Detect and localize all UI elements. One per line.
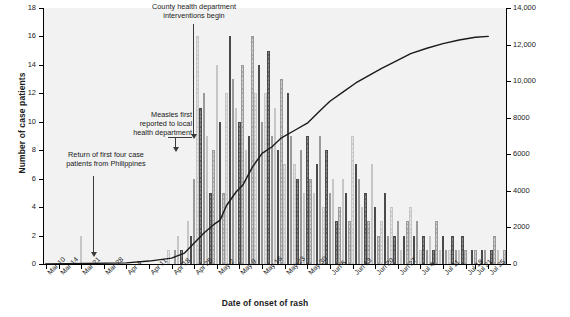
x-axis-title: Date of onset of rash	[0, 298, 530, 308]
annotation-return-line1: Return of first four case	[68, 150, 144, 159]
annotation-measles-reported: Measles first reported to local health d…	[62, 110, 192, 138]
y-axis-left-tick	[39, 36, 43, 37]
x-axis-tick	[172, 265, 173, 269]
y-axis-right-tick	[507, 81, 511, 82]
y-axis-left-tick-label: 16	[28, 31, 36, 40]
annotation-return-leader-line	[93, 176, 94, 254]
annotation-county-leader-line	[193, 24, 194, 136]
x-axis-tick	[46, 265, 47, 269]
y-axis-right-tick-label: 12,000	[513, 40, 536, 49]
y-axis-left-title: Number of case patients	[17, 38, 27, 208]
annotation-county-line2: interventions begin	[163, 11, 224, 20]
annotation-county-line1: County health department	[152, 2, 236, 11]
x-axis-tick	[59, 265, 60, 269]
y-axis-right-tick	[507, 264, 511, 265]
y-axis-left-tick-label: 6	[32, 174, 36, 183]
x-axis-tick	[466, 265, 467, 269]
y-axis-right-tick-label: 14,000	[513, 3, 536, 12]
y-axis-right-tick	[507, 191, 511, 192]
annotation-return-arrow-icon	[91, 252, 97, 257]
annotation-county-interventions: County health department interventions b…	[130, 2, 258, 20]
y-axis-left-tick-label: 10	[28, 117, 36, 126]
y-axis-left-tick-label: 2	[32, 231, 36, 240]
y-axis-right-tick-label: 10,000	[513, 76, 536, 85]
y-axis-left-tick	[39, 264, 43, 265]
x-axis-tick	[398, 265, 399, 269]
annotation-return-philippines: Return of first four case patients from …	[36, 150, 176, 168]
y-axis-left-line	[43, 8, 44, 265]
y-axis-left-tick	[39, 236, 43, 237]
y-axis-right-tick	[507, 227, 511, 228]
y-axis-left-tick	[39, 65, 43, 66]
y-axis-right-tick	[507, 154, 511, 155]
y-axis-left-tick-label: 4	[32, 202, 36, 211]
y-axis-left-tick-label: 18	[28, 3, 36, 12]
x-axis-tick	[104, 265, 105, 269]
annotation-measles-line2: reported to local	[140, 119, 192, 128]
annotation-measles-leader-horizontal	[168, 137, 192, 138]
y-axis-left-tick	[39, 8, 43, 9]
chart-figure: Number of case patients Cumulative numbe…	[0, 0, 570, 317]
y-axis-right-tick	[507, 45, 511, 46]
x-axis-tick	[353, 265, 354, 269]
y-axis-right-tick	[507, 118, 511, 119]
y-axis-left-tick-label: 12	[28, 88, 36, 97]
y-axis-right-tick	[507, 8, 511, 9]
y-axis-left-tick	[39, 207, 43, 208]
y-axis-right-tick-label: 8000	[513, 113, 530, 122]
annotation-measles-line1: Measles first	[151, 110, 192, 119]
y-axis-right-tick-label: 6000	[513, 149, 530, 158]
y-axis-left-tick	[39, 122, 43, 123]
y-axis-right-tick-label: 2000	[513, 222, 530, 231]
annotation-return-line2: patients from Philippines	[66, 159, 146, 168]
y-axis-left-tick	[39, 179, 43, 180]
y-axis-left-tick	[39, 93, 43, 94]
y-axis-left-tick-label: 14	[28, 60, 36, 69]
y-axis-right-tick-label: 0	[513, 259, 517, 268]
x-axis-tick	[285, 265, 286, 269]
y-axis-left-tick-label: 0	[32, 259, 36, 268]
y-axis-right-tick-label: 4000	[513, 186, 530, 195]
